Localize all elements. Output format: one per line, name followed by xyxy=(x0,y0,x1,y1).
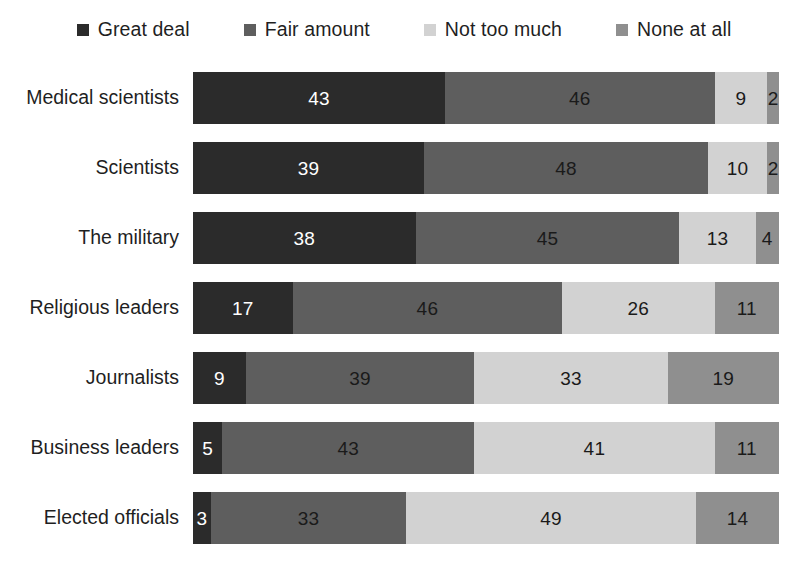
bar-segment-value: 11 xyxy=(737,299,757,318)
bar-segment-value: 43 xyxy=(338,439,360,458)
bar-segment-value: 33 xyxy=(560,369,582,388)
bar-row: Business leaders5434111 xyxy=(0,422,808,474)
bar-segment-value: 46 xyxy=(569,89,591,108)
bar-segment[interactable]: 45 xyxy=(416,212,680,264)
legend-swatch-icon xyxy=(616,24,628,36)
bar-segment-value: 46 xyxy=(417,299,439,318)
bar-segment[interactable]: 9 xyxy=(715,72,768,124)
bar-track: 5434111 xyxy=(193,422,779,474)
bar-segment[interactable]: 26 xyxy=(562,282,714,334)
legend-item-label: Great deal xyxy=(98,20,190,40)
bar-track: 9393319 xyxy=(193,352,779,404)
bar-segment[interactable]: 43 xyxy=(222,422,474,474)
bar-segment[interactable]: 13 xyxy=(679,212,755,264)
legend-item-label: Not too much xyxy=(445,20,562,40)
bar-segment-value: 33 xyxy=(298,509,320,528)
bar-segment[interactable]: 48 xyxy=(424,142,708,194)
bar-segment-value: 2 xyxy=(768,89,779,108)
bar-segment[interactable]: 19 xyxy=(668,352,779,404)
bar-segment[interactable]: 39 xyxy=(246,352,475,404)
category-label: Medical scientists xyxy=(0,88,193,108)
bar-segment-value: 9 xyxy=(735,89,746,108)
bar-row: Medical scientists434692 xyxy=(0,72,808,124)
bar-segment[interactable]: 5 xyxy=(193,422,222,474)
legend-item-label: None at all xyxy=(637,20,731,40)
bar-segment-value: 48 xyxy=(555,159,577,178)
category-label: Journalists xyxy=(0,368,193,388)
bar-row: Journalists9393319 xyxy=(0,352,808,404)
chart-legend: Great dealFair amountNot too muchNone at… xyxy=(0,10,808,50)
bar-segment-value: 4 xyxy=(762,229,773,248)
bar-segment-value: 39 xyxy=(349,369,371,388)
bar-segment-value: 45 xyxy=(537,229,559,248)
bar-segment-value: 39 xyxy=(298,159,320,178)
category-label: Elected officials xyxy=(0,508,193,528)
stacked-bar-chart: Great dealFair amountNot too muchNone at… xyxy=(0,0,808,573)
bar-segment[interactable]: 14 xyxy=(696,492,779,544)
bar-segment-value: 9 xyxy=(214,369,225,388)
bar-row: The military3845134 xyxy=(0,212,808,264)
bar-row: Elected officials3334914 xyxy=(0,492,808,544)
bar-segment[interactable]: 2 xyxy=(767,72,779,124)
legend-swatch-icon xyxy=(244,24,256,36)
bar-segment-value: 26 xyxy=(628,299,650,318)
bar-segment[interactable]: 11 xyxy=(715,422,779,474)
bar-segment-value: 49 xyxy=(540,509,562,528)
bar-row: Religious leaders17462611 xyxy=(0,282,808,334)
bar-segment[interactable]: 11 xyxy=(715,282,779,334)
bar-segment[interactable]: 39 xyxy=(193,142,424,194)
category-label: Business leaders xyxy=(0,438,193,458)
bar-segment[interactable]: 9 xyxy=(193,352,246,404)
bar-segment[interactable]: 33 xyxy=(474,352,667,404)
bar-segment-value: 5 xyxy=(202,439,213,458)
bar-track: 3334914 xyxy=(193,492,779,544)
bar-segment-value: 14 xyxy=(727,509,749,528)
bar-segment-value: 13 xyxy=(707,229,729,248)
category-label: The military xyxy=(0,228,193,248)
bar-segment[interactable]: 43 xyxy=(193,72,445,124)
bar-segment-value: 43 xyxy=(308,89,330,108)
bar-segment-value: 41 xyxy=(584,439,606,458)
bar-segment[interactable]: 2 xyxy=(767,142,779,194)
bar-track: 17462611 xyxy=(193,282,779,334)
bar-segment-value: 10 xyxy=(727,159,749,178)
bar-segment-value: 17 xyxy=(232,299,254,318)
bar-segment[interactable]: 46 xyxy=(445,72,715,124)
bar-segment-value: 11 xyxy=(737,439,757,458)
bar-segment[interactable]: 41 xyxy=(474,422,714,474)
legend-swatch-icon xyxy=(424,24,436,36)
legend-item[interactable]: None at all xyxy=(616,20,731,40)
bar-segment[interactable]: 49 xyxy=(406,492,696,544)
bar-track: 3845134 xyxy=(193,212,779,264)
bar-segment[interactable]: 38 xyxy=(193,212,416,264)
bar-segment[interactable]: 33 xyxy=(211,492,406,544)
legend-item-label: Fair amount xyxy=(265,20,370,40)
bar-segment[interactable]: 17 xyxy=(193,282,293,334)
bar-segment[interactable]: 10 xyxy=(708,142,767,194)
chart-plot-area: Medical scientists434692Scientists394810… xyxy=(0,62,808,562)
category-label: Religious leaders xyxy=(0,298,193,318)
bar-track: 3948102 xyxy=(193,142,779,194)
legend-item[interactable]: Fair amount xyxy=(244,20,370,40)
bar-segment[interactable]: 3 xyxy=(193,492,211,544)
bar-segment[interactable]: 46 xyxy=(293,282,563,334)
bar-row: Scientists3948102 xyxy=(0,142,808,194)
bar-track: 434692 xyxy=(193,72,779,124)
legend-item[interactable]: Great deal xyxy=(77,20,190,40)
legend-swatch-icon xyxy=(77,24,89,36)
bar-segment-value: 2 xyxy=(768,159,779,178)
bar-segment-value: 3 xyxy=(196,509,207,528)
legend-item[interactable]: Not too much xyxy=(424,20,562,40)
category-label: Scientists xyxy=(0,158,193,178)
bar-segment[interactable]: 4 xyxy=(756,212,779,264)
bar-segment-value: 38 xyxy=(294,229,316,248)
bar-segment-value: 19 xyxy=(713,369,735,388)
